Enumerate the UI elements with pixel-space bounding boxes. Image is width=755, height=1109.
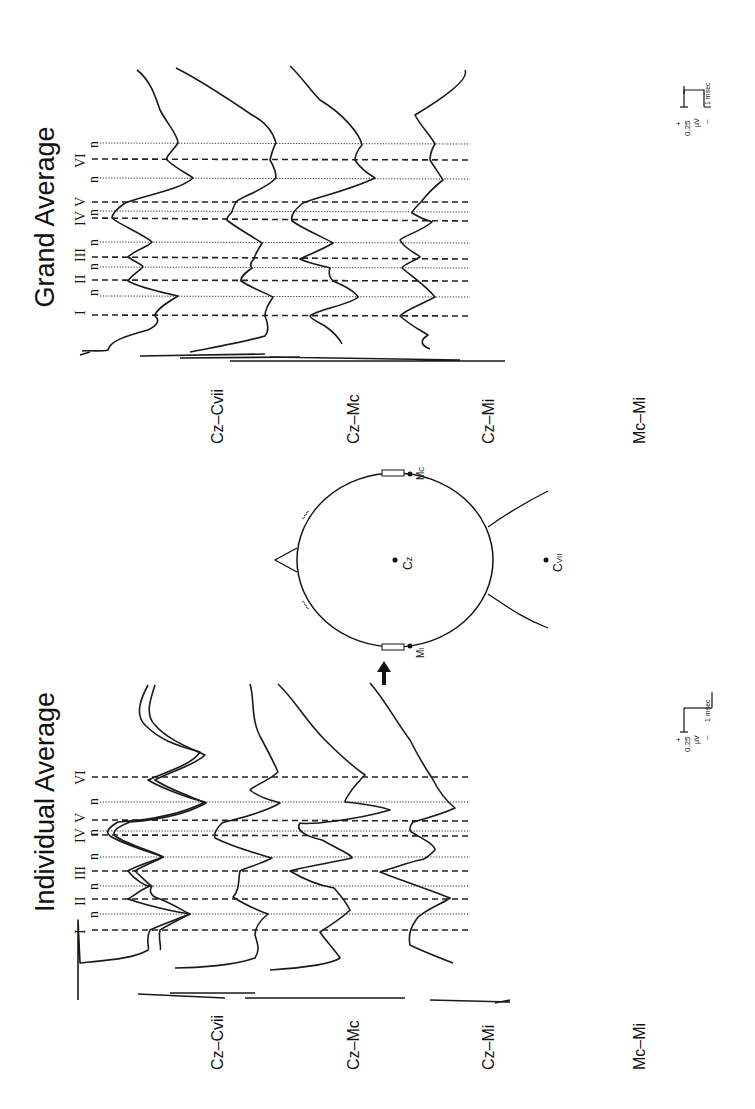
peak-label-n: n xyxy=(86,239,101,246)
peak-label-VI: VI xyxy=(73,770,88,785)
scale-amplitude: 0.25 xyxy=(683,736,692,752)
peak-label-I: I xyxy=(73,310,88,315)
scale-unit: µV xyxy=(693,118,701,127)
grand-trace-cz-mc xyxy=(176,68,276,352)
electrode-cvii: CVII xyxy=(551,554,565,572)
peak-label-II: II xyxy=(73,896,88,906)
grand-stimulus-artifact xyxy=(80,352,505,361)
arrow-icon xyxy=(377,661,391,685)
grand-trace-mc-mi xyxy=(400,70,466,349)
individual-trace-labels: Cz–Cvii Cz–Mc Cz–Mi Mc–Mi xyxy=(209,1015,648,1070)
individual-latency-lines xyxy=(92,777,470,930)
electrode-mc: MC xyxy=(415,467,426,480)
figure: Grand Average I n II n III n IV n V n VI… xyxy=(0,0,755,1109)
label-cz-mi: Cz–Mi xyxy=(480,1025,497,1070)
peak-label-n: n xyxy=(86,141,101,148)
scale-plus: + xyxy=(674,737,683,742)
individual-average-panel: Individual Average I n II n III n IV n V… xyxy=(30,683,712,1003)
scale-amplitude: 0.25 xyxy=(683,120,692,136)
head-diagram: MC MI Cz CVII xyxy=(275,467,565,685)
peak-label-n: n xyxy=(86,853,101,860)
grand-average-title: Grand Average xyxy=(30,126,60,307)
label-cz-cvii: Cz–Cvii xyxy=(209,1015,226,1070)
label-mc-mi: Mc–Mi xyxy=(631,397,648,444)
peak-label-I: I xyxy=(73,929,88,934)
label-cz-mc: Cz–Mc xyxy=(345,1020,362,1070)
grand-peak-labels: I n II n III n IV n V n VI n xyxy=(73,141,101,315)
scale-time: 1 msec xyxy=(704,699,711,722)
scale-minus: – xyxy=(702,119,711,124)
peak-label-n: n xyxy=(86,911,101,918)
peak-label-III: III xyxy=(73,866,88,880)
individual-trace-cz-mc xyxy=(175,684,280,968)
grand-trace-cz-mi xyxy=(290,66,375,344)
individual-peak-labels: I n II n III n IV n V n VI xyxy=(73,770,101,934)
peak-label-II: II xyxy=(73,274,88,284)
individual-trace-mc-mi xyxy=(370,683,455,963)
label-cz-mi: Cz–Mi xyxy=(480,399,497,444)
grand-average-panel: Grand Average I n II n III n IV n V n VI… xyxy=(30,66,711,361)
peak-label-n: n xyxy=(86,209,101,216)
grand-traces xyxy=(80,66,505,361)
peak-label-n: n xyxy=(86,883,101,890)
individual-stimulus-artifact xyxy=(138,993,510,1003)
individual-trace-cz-cvii-b xyxy=(114,685,206,950)
peak-label-V: V xyxy=(73,197,88,207)
individual-average-title: Individual Average xyxy=(30,692,60,912)
peak-label-n: n xyxy=(86,263,101,270)
scale-unit: µV xyxy=(693,735,701,744)
peak-label-n: n xyxy=(86,289,101,296)
label-cz-mc: Cz–Mc xyxy=(345,394,362,444)
grand-scale-bar: + 0.25 µV – 1 msec xyxy=(674,79,711,136)
individual-scale-bar: + 0.25 µV – 1 msec xyxy=(674,692,712,752)
peak-label-n: n xyxy=(86,798,101,805)
individual-trace-cz-mi xyxy=(270,684,390,970)
label-cz-cvii: Cz–Cvii xyxy=(209,389,226,444)
scale-minus: – xyxy=(702,735,711,740)
grand-trace-labels: Cz–Cvii Cz–Mc Cz–Mi Mc–Mi xyxy=(209,389,648,444)
individual-trace-cz-cvii-a xyxy=(78,685,205,1000)
peak-label-VI: VI xyxy=(73,153,88,168)
electrode-cz: Cz xyxy=(401,556,415,570)
grand-latency-lines xyxy=(92,143,470,316)
peak-label-V: V xyxy=(73,813,88,823)
individual-traces xyxy=(78,683,510,1003)
peak-label-n: n xyxy=(86,176,101,183)
label-mc-mi: Mc–Mi xyxy=(631,1023,648,1070)
peak-label-III: III xyxy=(73,248,88,262)
scale-plus: + xyxy=(674,121,683,126)
scale-time: 1 msec xyxy=(704,82,711,105)
electrode-mi: MI xyxy=(415,648,426,658)
